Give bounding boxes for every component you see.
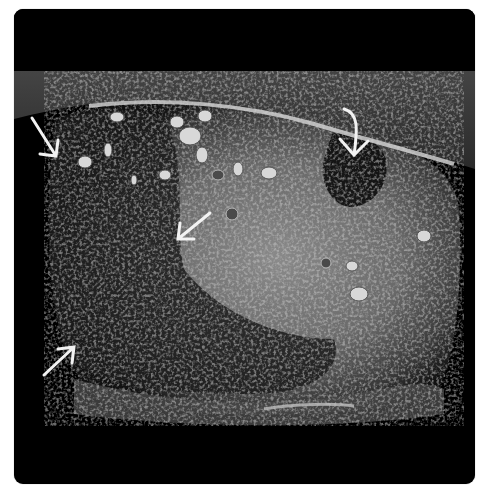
curved-arrow-down-icon	[332, 105, 372, 160]
arrow-up-right-icon	[40, 343, 80, 378]
arrow-down-right-icon	[26, 114, 66, 164]
ultrasound-scan	[14, 9, 475, 484]
ultrasound-image-frame	[14, 9, 475, 484]
arrow-down-left-icon	[174, 209, 214, 244]
